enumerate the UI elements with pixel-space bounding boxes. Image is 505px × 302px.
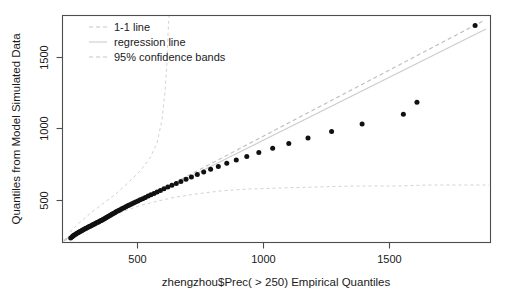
chart-canvas: 500 1000 1500 1500 1000 500 zhengzhou$Pr… [0,0,505,302]
data-point [414,100,419,105]
legend-label-confidence-bands: 95% confidence bands [114,51,226,63]
qq-plot-figure: 500 1000 1500 1500 1000 500 zhengzhou$Pr… [0,0,505,302]
data-point [256,150,261,155]
data-point [184,177,189,182]
y-axis-ticks [57,58,63,201]
data-point [201,169,206,174]
legend-label-one-to-one-line: 1-1 line [114,21,150,33]
data-point [169,183,174,188]
data-point [174,181,179,186]
data-point [270,146,275,151]
data-point [195,172,200,177]
y-tick-label-1500: 1500 [38,45,50,69]
data-point [189,174,194,179]
data-point [286,141,291,146]
data-point [244,154,249,159]
confidence-band-upper [70,16,169,232]
confidence-band-lower [70,185,489,235]
y-tick-label-1000: 1000 [38,116,50,140]
data-point [329,129,334,134]
data-point [360,122,365,127]
data-point [234,157,239,162]
data-point [473,23,478,28]
legend-label-regression-line: regression line [114,36,186,48]
x-axis-ticks [138,243,390,249]
x-tick-label-1000: 1000 [251,253,275,265]
data-point [216,164,221,169]
data-point [401,112,406,117]
x-tick-label-500: 500 [128,253,146,265]
y-tick-label-500: 500 [38,191,50,209]
data-point [306,135,311,140]
x-tick-label-1500: 1500 [377,253,401,265]
data-point [208,167,213,172]
y-axis-title: Quantiles from Model Simulated Data [10,33,22,225]
data-point [224,161,229,166]
legend: 1-1 line regression line 95% confidence … [89,21,226,63]
data-point [178,179,183,184]
x-axis-title: zhengzhou$Prec( > 250) Empirical Quantil… [162,276,391,288]
